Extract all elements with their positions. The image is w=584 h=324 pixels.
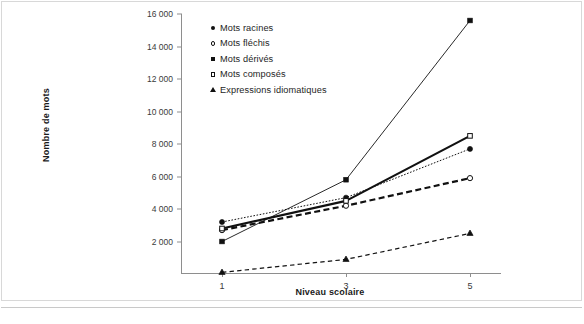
legend-item-label: Mots racines: [220, 23, 273, 33]
plot-area: 2 0004 0006 0008 00010 00012 00014 00016…: [181, 14, 501, 274]
open-circle-icon: [206, 41, 220, 46]
chart-page: Nombre de mots Niveau scolaire 2 0004 00…: [0, 0, 584, 324]
x-tick-label: 5: [450, 281, 490, 291]
data-point-marker: [467, 230, 473, 235]
data-point-marker: [468, 146, 473, 151]
legend-item-label: Mots dérivés: [220, 54, 273, 64]
series-line: [222, 149, 470, 222]
filled-triangle-icon: [206, 87, 220, 92]
chart-legend: Mots racines Mots fléchis Mots dérivés M…: [206, 20, 327, 98]
data-point-marker: [220, 226, 225, 231]
data-point-marker: [220, 220, 225, 225]
filled-square-icon: [206, 57, 220, 62]
series-line: [222, 233, 470, 272]
legend-item: Mots racines: [206, 20, 327, 36]
legend-item: Mots dérivés: [206, 51, 327, 67]
data-point-marker: [468, 134, 473, 139]
open-square-icon: [206, 72, 220, 77]
data-point-marker: [467, 176, 472, 181]
page-divider-rule: [1, 307, 582, 308]
y-tick-label: 6 000: [136, 172, 182, 182]
legend-item: Mots composés: [206, 67, 327, 83]
data-point-marker: [468, 18, 473, 23]
data-point-marker: [344, 177, 349, 182]
legend-item: Expressions idiomatiques: [206, 82, 327, 98]
y-tick-label: 2 000: [136, 237, 182, 247]
y-tick-label: 10 000: [136, 107, 182, 117]
data-point-marker: [344, 199, 349, 204]
y-tick-label: 16 000: [136, 9, 182, 19]
y-axis-title: Nombre de mots: [41, 45, 51, 205]
legend-item-label: Expressions idiomatiques: [220, 85, 327, 95]
data-point-marker: [343, 203, 348, 208]
y-tick-label: 8 000: [136, 139, 182, 149]
data-point-marker: [343, 256, 349, 261]
data-point-marker: [220, 239, 225, 244]
y-tick-label: 4 000: [136, 204, 182, 214]
y-tick-label: 12 000: [136, 74, 182, 84]
legend-item-label: Mots fléchis: [220, 38, 270, 48]
legend-item-label: Mots composés: [220, 69, 286, 79]
legend-item: Mots fléchis: [206, 36, 327, 52]
filled-circle-icon: [206, 26, 220, 30]
x-tick-label: 3: [326, 281, 366, 291]
x-tick-label: 1: [202, 281, 242, 291]
y-tick-label: 14 000: [136, 42, 182, 52]
line-chart-figure: Nombre de mots Niveau scolaire 2 0004 00…: [0, 0, 584, 300]
series-expressions-idiomatiques: [219, 230, 473, 274]
